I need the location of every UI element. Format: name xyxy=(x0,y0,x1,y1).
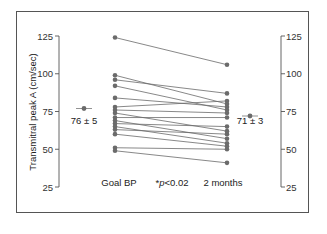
p-value-annotation: *p<0.02 xyxy=(155,177,188,188)
subject-line xyxy=(113,73,230,106)
right-tick-label: 50 xyxy=(286,144,297,155)
paired-lines xyxy=(113,35,230,165)
left-tick-label: 75 xyxy=(42,106,53,117)
left-tick-label: 50 xyxy=(42,144,53,155)
subject-line xyxy=(113,148,230,165)
right-tick-label: 75 xyxy=(286,106,297,117)
subject-line xyxy=(113,145,230,151)
subject-line xyxy=(113,132,230,149)
y-axis-label: Transmitral peak A (cm/sec) xyxy=(27,53,38,170)
left-tick-label: 25 xyxy=(42,182,53,193)
subject-line xyxy=(113,124,230,145)
left-tick-label: 100 xyxy=(37,68,53,79)
left-summary-marker xyxy=(76,106,92,111)
category-label-2-months: 2 months xyxy=(203,177,242,188)
right-tick-label: 100 xyxy=(286,68,302,79)
subject-line xyxy=(113,77,230,95)
right-tick-label: 25 xyxy=(286,182,297,193)
left-summary-label: 76 ± 5 xyxy=(71,115,97,126)
right-y-axis: 255075100125 xyxy=(281,31,302,193)
right-summary-label: 71 ± 3 xyxy=(237,115,263,126)
slope-chart: 255075100125 255075100125 Transmitral pe… xyxy=(0,0,327,234)
subject-line xyxy=(113,108,230,116)
category-label-goal-bp: Goal BP xyxy=(101,177,136,188)
subject-line xyxy=(113,115,230,120)
right-tick-label: 125 xyxy=(286,31,302,42)
subject-line xyxy=(113,35,230,67)
subject-line xyxy=(113,84,230,113)
left-y-axis: 255075100125 xyxy=(37,31,59,193)
left-tick-label: 125 xyxy=(37,31,53,42)
